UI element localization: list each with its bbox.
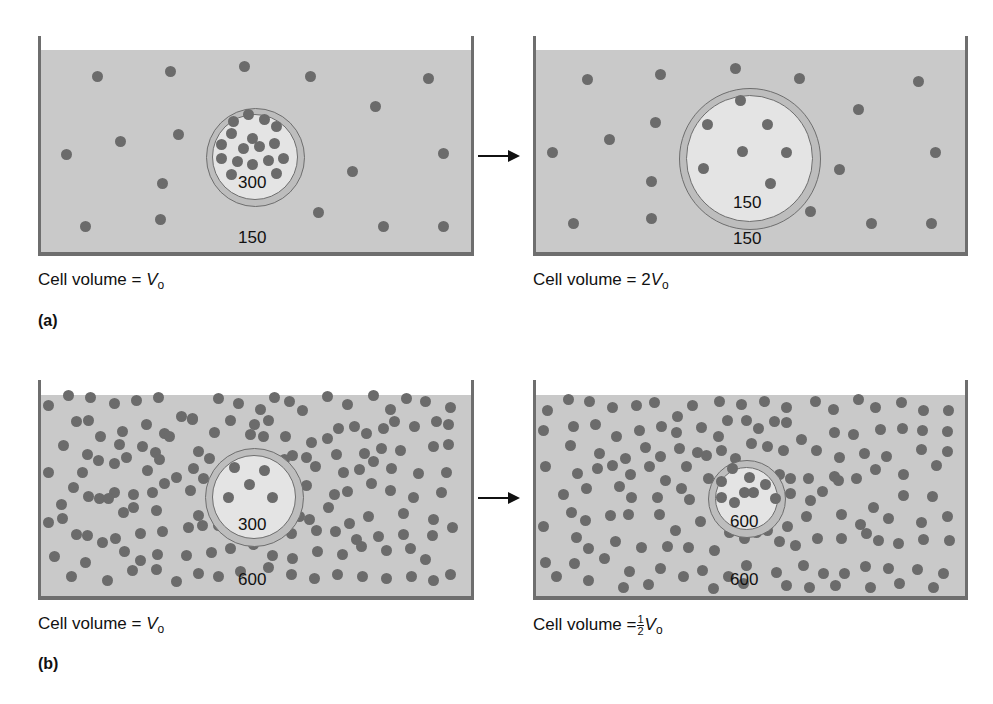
solute-particle (655, 563, 666, 574)
solute-particle (173, 129, 184, 140)
solute-particle (565, 440, 576, 451)
solute-particle (893, 538, 904, 549)
solute-particle (259, 465, 270, 476)
solute-particle (373, 531, 384, 542)
solute-particle (165, 66, 176, 77)
solute-particle (349, 421, 360, 432)
solute-particle (737, 146, 748, 157)
solute-particle (109, 398, 120, 409)
solute-particle (785, 473, 796, 484)
solute-particle (913, 76, 924, 87)
beaker-wall-left (533, 380, 536, 600)
solute-particle (796, 434, 807, 445)
cell-volume-caption: Cell volume =12Vo (533, 614, 663, 637)
solute-particle (280, 431, 291, 442)
solute-particle (83, 415, 94, 426)
solute-particle (409, 421, 420, 432)
solute-particle (540, 461, 551, 472)
solute-particle (176, 411, 187, 422)
solute-particle (592, 463, 603, 474)
cell-volume-caption: Cell volume = Vo (38, 270, 164, 290)
solute-particle (228, 116, 239, 127)
solute-particle (153, 392, 164, 403)
solute-particle (801, 511, 812, 522)
solute-particle (225, 415, 236, 426)
solute-particle (304, 514, 315, 525)
solute-particle (568, 218, 579, 229)
solute-particle (644, 461, 655, 472)
solute-particle (944, 535, 955, 546)
solute-particle (765, 178, 776, 189)
solute-particle (881, 451, 892, 462)
solute-particle (655, 69, 666, 80)
solute-particle (753, 423, 764, 434)
solute-particle (805, 206, 816, 217)
solute-particle (71, 416, 82, 427)
solute-particle (698, 163, 709, 174)
solute-particle (271, 168, 282, 179)
solute-particle (381, 573, 392, 584)
solute-particle (716, 492, 727, 503)
solute-particle (97, 537, 108, 548)
solute-particle (85, 392, 96, 403)
solute-particle (259, 114, 270, 125)
beaker: 150 150 (533, 36, 968, 256)
caption-sub: o (158, 278, 165, 292)
solute-particle (571, 532, 582, 543)
solute-particle (323, 502, 334, 513)
solute-particle (151, 564, 162, 575)
beaker-wall-bottom (533, 596, 968, 600)
solute-particle (193, 568, 204, 579)
solute-particle (342, 486, 353, 497)
solute-particle (818, 568, 829, 579)
solute-particle (610, 536, 621, 547)
solute-particle (368, 456, 379, 467)
solute-particle (643, 579, 654, 590)
solute-particle (357, 571, 368, 582)
solute-particle (918, 534, 929, 545)
solute-particle (646, 176, 657, 187)
inside-concentration: 600 (730, 512, 758, 532)
solute-particle (853, 104, 864, 115)
solute-particle (708, 583, 719, 594)
solute-particle (213, 393, 224, 404)
solute-particle (631, 400, 642, 411)
solute-particle (305, 71, 316, 82)
solute-particle (354, 464, 365, 475)
solute-particle (729, 497, 740, 508)
solute-particle (851, 473, 862, 484)
solute-particle (853, 394, 864, 405)
solute-particle (152, 549, 163, 560)
solute-particle (803, 473, 814, 484)
solute-particle (624, 566, 635, 577)
solute-particle (674, 443, 685, 454)
fraction-denominator: 2 (637, 626, 643, 637)
beaker-wall-right (965, 36, 968, 256)
solute-particle (681, 461, 692, 472)
solute-particle (155, 214, 166, 225)
solute-particle (395, 445, 406, 456)
solute-particle (722, 415, 733, 426)
solute-particle (309, 573, 320, 584)
solute-particle (683, 542, 694, 553)
solute-particle (701, 450, 712, 461)
solute-particle (193, 446, 204, 457)
solute-particle (135, 528, 146, 539)
solute-particle (267, 550, 278, 561)
solute-particle (605, 510, 616, 521)
solute-particle (646, 213, 657, 224)
solute-particle (898, 469, 909, 480)
cell-volume-caption: Cell volume = 2Vo (533, 270, 669, 290)
caption-var: V (146, 270, 157, 289)
solute-particle (566, 507, 577, 518)
solute-particle (197, 520, 208, 531)
solute-particle (312, 546, 323, 557)
solute-particle (709, 545, 720, 556)
solute-particle (82, 530, 93, 541)
solute-particle (859, 448, 870, 459)
solute-particle (370, 101, 381, 112)
solute-particle (785, 488, 796, 499)
caption-sub: o (158, 622, 165, 636)
solute-particle (258, 431, 269, 442)
solute-particle (313, 207, 324, 218)
